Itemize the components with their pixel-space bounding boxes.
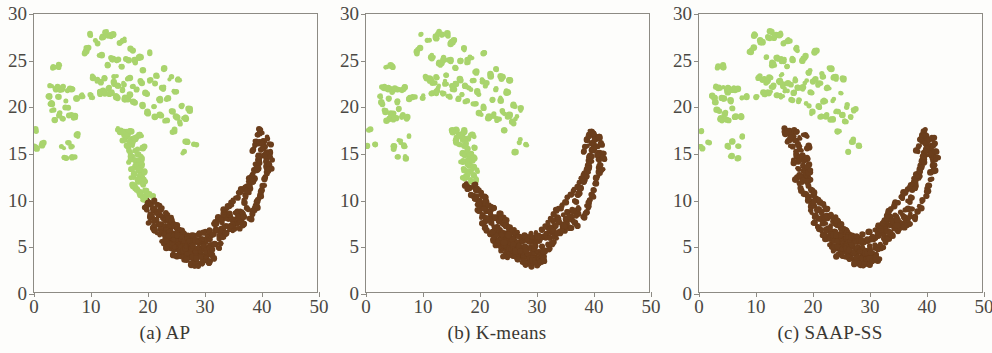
data-point-green: [401, 142, 408, 149]
y-tick-label-30: 30: [8, 4, 27, 23]
data-point-green: [139, 143, 147, 151]
data-point-brown: [554, 230, 560, 236]
data-point-brown: [572, 198, 579, 205]
data-point-green: [738, 113, 745, 120]
data-point-green: [62, 105, 71, 111]
y-tick-20: [361, 107, 366, 108]
panel-saapss: 05101520253001020304050 (c) SAAP-SS: [665, 0, 992, 353]
data-point-green: [699, 144, 705, 152]
data-point-green: [790, 90, 797, 97]
data-point-green: [79, 92, 86, 99]
data-point-green: [815, 103, 822, 110]
data-point-brown: [934, 154, 941, 162]
data-point-green: [501, 127, 508, 133]
data-point-brown: [912, 214, 919, 222]
y-tick-label-30: 30: [673, 4, 692, 23]
data-point-green: [111, 74, 119, 79]
data-point-green: [722, 110, 729, 118]
y-tick-label-15: 15: [8, 144, 27, 163]
data-point-green: [378, 99, 385, 107]
data-point-green: [472, 68, 479, 76]
data-point-green: [493, 66, 499, 72]
data-point-green: [724, 143, 731, 150]
x-tick-label-50: 50: [975, 297, 992, 316]
y-tick-label-5: 5: [18, 237, 28, 256]
data-point-green: [425, 38, 432, 43]
data-point-green: [719, 95, 728, 102]
plot-frame-kmeans: 05101520253001020304050: [365, 13, 650, 293]
y-tick-label-10: 10: [8, 191, 27, 210]
data-point-green: [420, 93, 426, 101]
data-point-green: [366, 126, 373, 133]
data-point-green: [179, 103, 185, 110]
data-point-green: [48, 100, 55, 107]
data-point-green: [844, 102, 850, 110]
data-point-green: [440, 55, 447, 64]
data-point-green: [749, 44, 757, 52]
data-point-green: [401, 84, 408, 92]
data-point-green: [765, 89, 773, 96]
x-tick-label-0: 0: [361, 297, 371, 316]
data-point-green: [468, 55, 475, 61]
data-point-green: [848, 114, 854, 120]
data-point-green: [778, 93, 785, 100]
data-point-green: [97, 52, 105, 59]
data-point-green: [727, 97, 734, 104]
data-point-green: [127, 46, 136, 54]
data-point-brown: [472, 195, 478, 201]
data-point-green: [800, 53, 808, 62]
y-tick-5: [694, 247, 699, 248]
y-tick-20: [29, 107, 34, 108]
y-tick-label-25: 25: [8, 51, 27, 70]
data-point-green: [444, 30, 451, 39]
y-tick-25: [361, 61, 366, 62]
data-point-green: [55, 94, 62, 100]
data-point-green: [177, 119, 183, 126]
data-point-green: [87, 92, 95, 100]
scatter-plot-saapss: [699, 14, 982, 292]
y-tick-10: [361, 201, 366, 202]
data-point-green: [59, 116, 65, 122]
data-point-brown: [199, 236, 205, 242]
data-point-green: [782, 87, 789, 94]
x-tick-label-50: 50: [642, 297, 661, 316]
data-point-green: [471, 145, 477, 151]
data-point-green: [130, 99, 138, 106]
y-tick-label-15: 15: [340, 144, 359, 163]
data-point-green: [849, 137, 856, 145]
data-point-green: [101, 75, 107, 82]
x-tick-label-30: 30: [196, 297, 215, 316]
data-point-green: [68, 143, 74, 149]
x-tick-label-40: 40: [918, 297, 937, 316]
data-point-green: [792, 76, 798, 83]
data-point-green: [824, 85, 832, 92]
data-point-green: [807, 89, 814, 95]
data-point-green: [776, 30, 784, 38]
data-point-brown: [257, 131, 265, 137]
data-point-green: [461, 45, 467, 52]
data-point-green: [789, 56, 796, 63]
scatter-plot-ap: [34, 14, 317, 292]
data-point-green: [440, 90, 447, 96]
y-tick-label-20: 20: [673, 97, 692, 116]
data-point-green: [830, 74, 838, 82]
scatter-plot-kmeans: [366, 14, 649, 292]
data-point-green: [827, 65, 835, 72]
y-tick-10: [694, 201, 699, 202]
data-point-green: [735, 143, 741, 148]
data-point-green: [466, 85, 473, 92]
data-point-green: [372, 141, 378, 147]
data-point-green: [811, 48, 820, 56]
data-point-green: [497, 73, 505, 82]
data-point-green: [191, 142, 199, 148]
data-point-green: [751, 31, 758, 39]
data-point-brown: [229, 222, 236, 229]
data-point-green: [769, 83, 777, 90]
data-point-green: [802, 78, 809, 85]
data-point-green: [142, 90, 150, 97]
data-point-green: [396, 106, 402, 113]
data-point-green: [517, 137, 523, 145]
y-tick-label-0: 0: [18, 284, 28, 303]
data-point-green: [140, 67, 147, 74]
data-point-brown: [590, 187, 596, 193]
